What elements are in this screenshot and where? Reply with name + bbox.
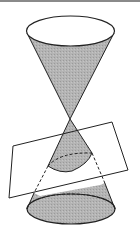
upper-nappe [27, 16, 115, 119]
double-cone-diagram [0, 0, 140, 235]
top-ellipse [27, 16, 115, 46]
